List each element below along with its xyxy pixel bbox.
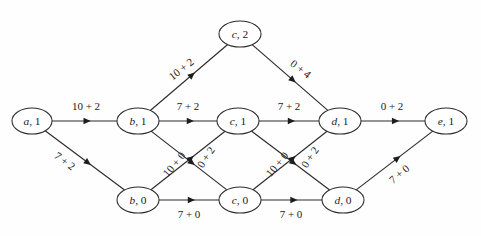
arrowhead-icon bbox=[392, 118, 399, 124]
edge-label-b1-to-c0: 0 + 2 bbox=[194, 144, 217, 170]
edge-label-c0-to-d1: 10 + 0 bbox=[263, 149, 291, 179]
edge-label-c0-to-d0: 7 + 0 bbox=[280, 208, 303, 220]
edge-label-d0-to-e1: 7 + 0 bbox=[386, 162, 411, 186]
edge-c1-to-d1 bbox=[259, 118, 319, 124]
node-d1[interactable]: d, 1 bbox=[319, 108, 361, 134]
edge-label-b1-to-c1: 7 + 2 bbox=[177, 100, 200, 112]
arrowhead-icon bbox=[83, 158, 91, 165]
node-label-a1: a, 1 bbox=[23, 114, 40, 126]
node-label-e1: e, 1 bbox=[438, 114, 455, 126]
node-b1[interactable]: b, 1 bbox=[117, 108, 159, 134]
node-a1[interactable]: a, 1 bbox=[12, 108, 52, 134]
edge-label-c1-to-d1: 7 + 2 bbox=[278, 100, 301, 112]
node-c1[interactable]: c, 1 bbox=[217, 108, 259, 134]
figure-container: a, 1b, 1c, 1d, 1e, 1c, 2b, 0c, 0d, 0 10 … bbox=[0, 0, 481, 236]
node-e1[interactable]: e, 1 bbox=[425, 108, 467, 134]
node-c0[interactable]: c, 0 bbox=[219, 187, 261, 213]
edge-label-d1-to-e1: 0 + 2 bbox=[381, 100, 404, 112]
node-c2[interactable]: c, 2 bbox=[219, 21, 261, 47]
edge-label-c1-to-d0: 0 + 2 bbox=[298, 144, 321, 170]
edge-label-b0-to-c0: 7 + 0 bbox=[178, 208, 201, 220]
node-d0[interactable]: d, 0 bbox=[322, 187, 364, 213]
nodes-layer: a, 1b, 1c, 1d, 1e, 1c, 2b, 0c, 0d, 0 bbox=[12, 21, 467, 213]
arrowhead-icon bbox=[393, 156, 401, 163]
node-label-c2: c, 2 bbox=[232, 27, 249, 39]
arrowhead-icon bbox=[288, 118, 295, 124]
node-label-d0: d, 0 bbox=[334, 193, 351, 205]
node-label-b0: b, 0 bbox=[129, 193, 146, 205]
edge-c0-to-d0 bbox=[261, 197, 322, 203]
graph-canvas: a, 1b, 1c, 1d, 1e, 1c, 2b, 0c, 0d, 0 10 … bbox=[0, 0, 481, 236]
edge-b1-to-c1 bbox=[159, 118, 217, 124]
edge-label-a1-to-b1: 10 + 2 bbox=[72, 100, 100, 112]
arrowhead-icon bbox=[188, 197, 195, 203]
node-label-c0: c, 0 bbox=[232, 193, 249, 205]
arrowhead-icon bbox=[84, 118, 91, 124]
node-label-d1: d, 1 bbox=[331, 114, 348, 126]
node-label-b1: b, 1 bbox=[129, 114, 146, 126]
arrowhead-icon bbox=[187, 118, 194, 124]
edge-d1-to-e1 bbox=[361, 118, 425, 124]
node-b0[interactable]: b, 0 bbox=[117, 187, 159, 213]
edge-b0-to-c0 bbox=[159, 197, 219, 203]
node-label-c1: c, 1 bbox=[230, 114, 247, 126]
arrowhead-icon bbox=[290, 197, 297, 203]
edge-a1-to-b1 bbox=[52, 118, 117, 124]
